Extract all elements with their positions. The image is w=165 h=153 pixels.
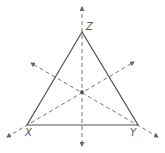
- dashed-line-through-x: [7, 62, 134, 137]
- dashed-line-through-y: [31, 63, 158, 137]
- vertex-label-x: X: [25, 127, 32, 138]
- vertex-label-z: Z: [86, 21, 93, 32]
- intersection-point: [80, 90, 84, 94]
- vertex-label-y: Y: [130, 127, 136, 138]
